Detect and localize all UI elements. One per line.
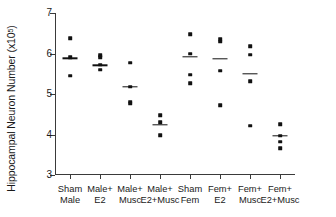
group-mean-line bbox=[273, 135, 288, 136]
data-point bbox=[218, 103, 222, 107]
group-mean-line bbox=[243, 73, 258, 74]
x-axis-label-7: Fem+E2+Musc bbox=[260, 184, 299, 205]
data-point bbox=[98, 68, 102, 72]
data-point bbox=[128, 102, 132, 106]
x-axis-label-line2: Fem bbox=[178, 195, 202, 206]
y-axis-line bbox=[55, 13, 56, 175]
x-axis-label-line1: Male+ bbox=[147, 184, 173, 194]
group-mean-line bbox=[183, 56, 198, 57]
group-mean-line bbox=[93, 65, 108, 66]
x-tick-mark-4 bbox=[190, 174, 191, 179]
group-mean-line bbox=[213, 58, 228, 59]
x-tick-mark-2 bbox=[130, 174, 131, 179]
data-point bbox=[128, 61, 132, 65]
data-point bbox=[218, 40, 222, 44]
x-axis-label-line1: Male+ bbox=[87, 184, 113, 194]
data-point bbox=[278, 146, 282, 150]
scatter-plot-figure: Hippocampal Neuron Number (x105) 34567 S… bbox=[0, 0, 336, 217]
x-axis-label-line1: Sham bbox=[58, 184, 82, 194]
x-axis-line bbox=[55, 174, 295, 175]
group-mean-line bbox=[153, 124, 168, 125]
group-mean-line bbox=[63, 58, 78, 59]
x-axis-label-line2: E2 bbox=[87, 195, 113, 206]
x-tick-mark-0 bbox=[70, 174, 71, 179]
data-point bbox=[158, 134, 162, 138]
data-point bbox=[68, 36, 72, 40]
y-axis-title-text: Hippocampal Neuron Number (x10 bbox=[5, 32, 17, 191]
group-mean-line bbox=[123, 86, 138, 87]
data-point bbox=[188, 33, 192, 37]
x-axis-label-1: Male+E2 bbox=[87, 184, 113, 205]
x-axis-label-line1: Sham bbox=[178, 184, 202, 194]
x-axis-label-line1: Fem+ bbox=[238, 184, 262, 194]
data-point bbox=[278, 140, 282, 144]
x-tick-mark-6 bbox=[250, 174, 251, 179]
data-point bbox=[218, 69, 222, 73]
x-axis-label-5: Fem+E2 bbox=[208, 184, 232, 205]
x-axis-label-line2: Musc bbox=[238, 195, 262, 206]
data-point bbox=[188, 52, 192, 56]
x-tick-mark-5 bbox=[220, 174, 221, 179]
y-tick-label: 5 bbox=[46, 89, 52, 99]
data-point bbox=[158, 114, 162, 118]
data-point bbox=[248, 44, 252, 48]
data-point bbox=[188, 73, 192, 77]
data-point bbox=[188, 81, 192, 85]
x-tick-mark-7 bbox=[280, 174, 281, 179]
y-tick-label: 3 bbox=[46, 170, 52, 180]
data-point bbox=[68, 74, 72, 78]
x-axis-label-line1: Fem+ bbox=[268, 184, 292, 194]
x-axis-label-line1: Fem+ bbox=[208, 184, 232, 194]
x-tick-mark-3 bbox=[160, 174, 161, 179]
y-tick-label: 7 bbox=[46, 8, 52, 18]
x-axis-label-2: Male+Musc bbox=[117, 184, 143, 205]
y-axis-title: Hippocampal Neuron Number (x105) bbox=[0, 0, 22, 217]
x-axis-label-0: ShamMale bbox=[58, 184, 82, 205]
y-tick-label: 6 bbox=[46, 49, 52, 59]
data-point bbox=[278, 122, 282, 126]
plot-area: 34567 bbox=[55, 13, 295, 175]
data-point bbox=[98, 55, 102, 59]
x-axis-label-line2: E2+Musc bbox=[260, 195, 299, 206]
x-axis-label-line2: E2 bbox=[208, 195, 232, 206]
x-axis-label-line2: Male bbox=[58, 195, 82, 206]
x-axis-label-line2: Musc bbox=[117, 195, 143, 206]
data-point bbox=[248, 124, 252, 128]
x-axis-label-line1: Male+ bbox=[117, 184, 143, 194]
x-axis-label-line2: E2+Musc bbox=[140, 195, 179, 206]
y-axis-title-suffix: ) bbox=[5, 25, 17, 28]
x-tick-mark-1 bbox=[100, 174, 101, 179]
y-tick-label: 4 bbox=[46, 130, 52, 140]
x-axis-label-3: Male+E2+Musc bbox=[140, 184, 179, 205]
x-axis-label-4: ShamFem bbox=[178, 184, 202, 205]
data-point bbox=[248, 79, 252, 83]
data-point bbox=[248, 53, 252, 57]
x-axis-label-6: Fem+Musc bbox=[238, 184, 262, 205]
